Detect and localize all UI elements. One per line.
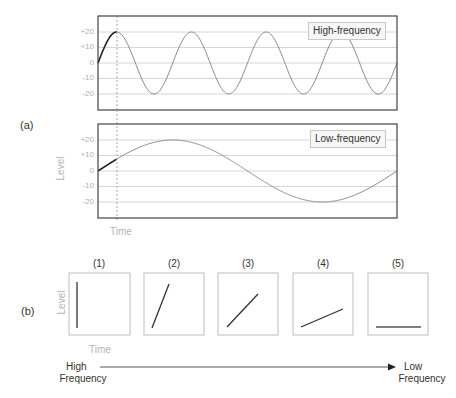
slope-boxes (69, 273, 428, 335)
panel-label-a: (a) (20, 119, 33, 131)
ytick: -10 (72, 181, 94, 190)
slope-x-axis-label: Time (89, 344, 111, 355)
slope-box-label-4: (4) (293, 258, 353, 269)
slope-box-4 (293, 273, 353, 335)
slope-box-5 (368, 273, 428, 335)
slope-y-axis-label: Level (56, 291, 67, 315)
low-frequency-label: Low Frequency (392, 361, 452, 385)
high-frequency-label-line2: Frequency (58, 373, 108, 385)
slope-box-label-3: (3) (218, 258, 278, 269)
ytick: +10 (72, 42, 94, 51)
ytick: 0 (72, 166, 94, 175)
high-frequency-label-line1: High (58, 361, 108, 373)
low-frequency-label-line1: Low (392, 361, 452, 373)
slope-box-1 (69, 273, 130, 335)
diagram-canvas (0, 0, 456, 398)
slope-box-label-5: (5) (368, 258, 428, 269)
legend-high-frequency: High-frequency (308, 22, 386, 40)
ytick: +10 (72, 150, 94, 159)
ytick: -20 (72, 89, 94, 98)
slope-line-4 (301, 309, 343, 327)
y-axis-label-level: Level (55, 157, 66, 181)
ytick: +20 (72, 27, 94, 36)
panel-label-b: (b) (21, 305, 34, 317)
slope-line-2 (152, 284, 169, 328)
ytick: -20 (72, 197, 94, 206)
high-frequency-label: High Frequency (58, 361, 108, 385)
slope-box-label-1: (1) (69, 258, 129, 269)
frequency-arrow (100, 364, 396, 371)
ytick: -10 (72, 73, 94, 82)
low-frequency-label-line2: Frequency (392, 373, 452, 385)
low-frequency-chart (98, 110, 397, 221)
ytick: 0 (72, 58, 94, 67)
legend-low-frequency: Low-frequency (310, 130, 386, 148)
ytick: +20 (72, 135, 94, 144)
slope-box-label-2: (2) (144, 258, 204, 269)
slope-line-3 (227, 294, 258, 327)
x-axis-label-time: Time (110, 226, 132, 237)
low-frequency-wave-start (98, 159, 117, 171)
